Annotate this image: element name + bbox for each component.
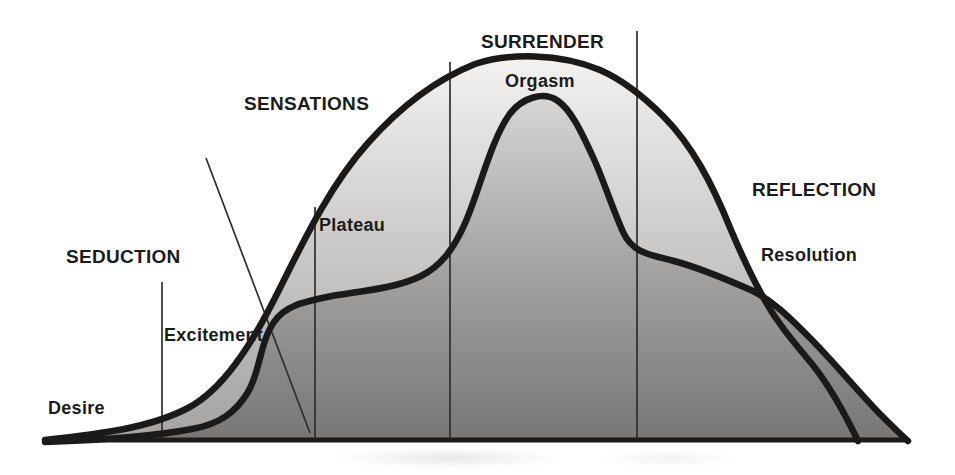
diagram-canvas: SEDUCTION SENSATIONS SURRENDER REFLECTIO…: [0, 0, 955, 475]
label-reflection: REFLECTION: [752, 180, 876, 199]
label-surrender: SURRENDER: [481, 32, 604, 51]
label-resolution: Resolution: [761, 246, 857, 264]
scan-artifact-smudge: [600, 451, 740, 466]
response-cycle-figure: [0, 0, 955, 475]
label-sensations: SENSATIONS: [244, 94, 369, 113]
label-desire: Desire: [48, 399, 105, 417]
scan-artifact-smudge: [330, 448, 570, 468]
label-plateau: Plateau: [319, 216, 385, 234]
label-excitement: Excitement: [164, 326, 263, 344]
label-seduction: SEDUCTION: [66, 247, 181, 266]
label-orgasm: Orgasm: [505, 72, 575, 90]
